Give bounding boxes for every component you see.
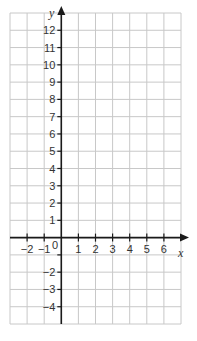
x-tick-label: 4 bbox=[127, 243, 133, 255]
y-tick-label: 4 bbox=[49, 163, 55, 175]
y-axis-arrow-icon bbox=[57, 6, 65, 15]
x-axis-label: x bbox=[177, 246, 184, 260]
y-tick-label: −3 bbox=[43, 283, 56, 295]
x-tick-label: 5 bbox=[144, 243, 150, 255]
y-tick-label: 12 bbox=[43, 24, 55, 36]
x-tick-label: 2 bbox=[92, 243, 98, 255]
y-tick-label: 5 bbox=[49, 145, 55, 157]
y-tick-label: 6 bbox=[49, 128, 55, 140]
x-tick-label: −1 bbox=[38, 243, 51, 255]
y-tick-label: 9 bbox=[49, 76, 55, 88]
coordinate-grid: −2−1123456−4−3−2123456789101112 x y 0 bbox=[0, 0, 197, 341]
y-axis-label: y bbox=[48, 6, 55, 20]
y-tick-label: 10 bbox=[43, 59, 55, 71]
grid-lines bbox=[10, 13, 181, 324]
y-tick-label: −2 bbox=[43, 266, 56, 278]
x-tick-label: 1 bbox=[75, 243, 81, 255]
y-tick-label: 2 bbox=[49, 197, 55, 209]
axes bbox=[10, 6, 189, 324]
x-tick-label: −2 bbox=[21, 243, 34, 255]
y-tick-label: 8 bbox=[49, 93, 55, 105]
y-tick-label: 1 bbox=[49, 214, 55, 226]
y-tick-label: 3 bbox=[49, 180, 55, 192]
origin-label: 0 bbox=[52, 239, 58, 251]
x-tick-label: 6 bbox=[161, 243, 167, 255]
y-tick-label: 11 bbox=[44, 42, 55, 54]
y-tick-label: −4 bbox=[43, 301, 56, 313]
y-tick-label: 7 bbox=[49, 111, 55, 123]
x-axis-arrow-icon bbox=[180, 234, 189, 242]
x-tick-label: 3 bbox=[110, 243, 116, 255]
